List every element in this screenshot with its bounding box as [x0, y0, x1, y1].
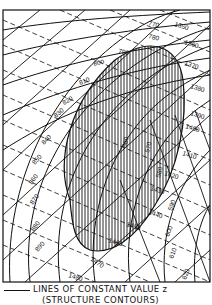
structure-contour-map: 1350 770 1360 780 1370 790 1380 800 1390…	[0, 0, 212, 283]
legend: LINES OF CONSTANT VALUE z (STRUCTURE CON…	[0, 283, 212, 305]
legend-label: LINES OF CONSTANT VALUE z	[33, 284, 167, 294]
legend-sublabel: (STRUCTURE CONTOURS)	[42, 295, 159, 305]
solid-line-swatch	[4, 290, 30, 291]
